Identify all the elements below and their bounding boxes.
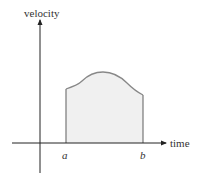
x-axis-label: time (170, 137, 190, 149)
y-axis-label: velocity (24, 7, 60, 19)
shaded-area-region (66, 72, 143, 143)
right-bound-label: b (140, 149, 146, 161)
velocity-time-diagram: velocity time a b (0, 0, 201, 182)
left-bound-label: a (62, 149, 68, 161)
